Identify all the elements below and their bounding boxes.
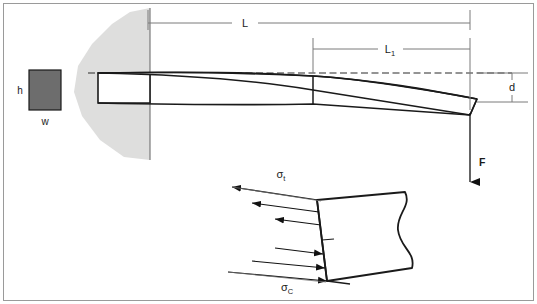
d-dimension-label: d xyxy=(509,81,515,93)
figure-root: L L1 d F h w xyxy=(0,0,537,304)
L-dimension-label: L xyxy=(242,17,248,29)
figure-border xyxy=(4,4,534,301)
engineering-diagram-canvas: L L1 d F h w xyxy=(0,0,537,304)
beam-root-section xyxy=(98,73,150,103)
force-label: F xyxy=(479,156,486,168)
cross-section-width-label: w xyxy=(40,116,49,127)
cross-section-height-label: h xyxy=(17,85,23,96)
beam-cross-section xyxy=(29,70,61,110)
beam-section-with-break xyxy=(317,192,413,281)
